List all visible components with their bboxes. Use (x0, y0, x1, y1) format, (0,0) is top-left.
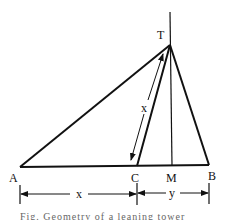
tc-dimension-arrow-lower (131, 114, 144, 160)
ac-length-label: x (76, 187, 82, 201)
point-label-b: B (208, 169, 216, 183)
point-label-a: A (9, 171, 18, 185)
segment-at (20, 45, 170, 167)
point-label-c: C (131, 171, 139, 185)
tc-length-label: x (141, 101, 147, 115)
segment-ab (20, 165, 209, 167)
point-label-t: T (157, 28, 165, 42)
cb-length-label: y (169, 186, 175, 200)
figure-caption: Fig. Geometry of a leaning tower problem (20, 212, 229, 220)
geometry-diagram: x T A C M B x y (0, 0, 229, 220)
vertical-line-tm (170, 12, 172, 166)
point-label-m: M (166, 171, 177, 185)
segment-tb (170, 45, 209, 165)
